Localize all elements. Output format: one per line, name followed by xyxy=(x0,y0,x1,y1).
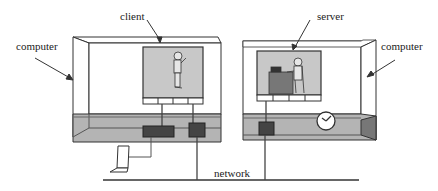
label-network: network xyxy=(214,167,250,179)
client-server-diagram xyxy=(0,0,438,191)
network-device-3 xyxy=(259,122,274,135)
network-device-2 xyxy=(189,123,205,137)
label-server: server xyxy=(317,10,344,22)
laptop-icon xyxy=(110,146,129,172)
clock-icon xyxy=(317,112,335,130)
label-client: client xyxy=(120,10,144,22)
label-computer-right: computer xyxy=(381,40,423,52)
label-computer-left: computer xyxy=(16,40,58,52)
network-device-1 xyxy=(143,126,174,137)
